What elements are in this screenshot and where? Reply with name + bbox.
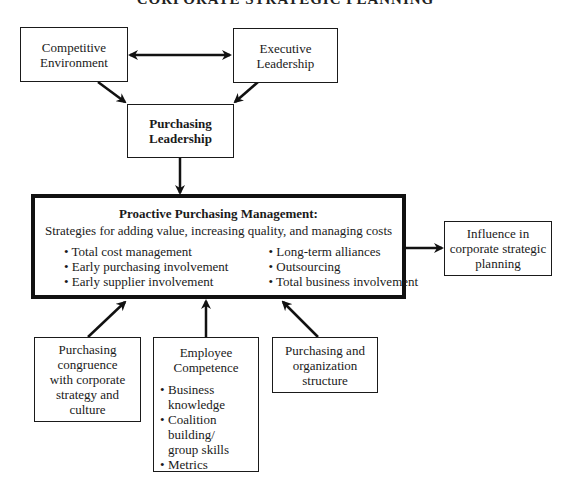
arrow-congruence-to-management: [88, 302, 125, 337]
management-strategy-list: • Total cost management • Early purchasi…: [35, 244, 402, 289]
node-label-line: planning: [475, 256, 521, 271]
management-subtitle: Strategies for adding value, increasing …: [35, 223, 402, 238]
node-influence-in-planning: Influence in corporate strategic plannin…: [444, 221, 552, 276]
node-purchasing-leadership: Purchasing Leadership: [127, 104, 234, 158]
node-label-line: Competitive: [42, 40, 106, 55]
node-label-line: Environment: [40, 55, 108, 70]
node-proactive-purchasing-management: Proactive Purchasing Management: Strateg…: [31, 194, 406, 299]
node-label-line: corporate strategic: [450, 241, 546, 256]
node-label-line: Leadership: [149, 131, 212, 146]
strategy-item: • Long-term alliances: [268, 244, 418, 259]
arrow-executive-to-purchasing-leadership: [235, 82, 258, 102]
node-label-line: Executive: [260, 41, 312, 56]
arrow-structure-to-management: [283, 302, 318, 337]
strategy-item: • Total cost management: [64, 244, 228, 259]
node-label-line: organization: [293, 358, 358, 373]
competence-list: Business knowledge Coalition building/ g…: [154, 382, 248, 472]
strategy-item: • Total business involvement: [268, 274, 418, 289]
strategy-column-right: • Long-term alliances • Outsourcing • To…: [228, 244, 418, 289]
competence-item: Metrics: [160, 457, 248, 472]
node-label-line: Purchasing and: [285, 343, 365, 358]
node-label-line: culture: [69, 402, 105, 417]
management-heading: Proactive Purchasing Management:: [35, 206, 402, 221]
node-label-line: Competence: [174, 360, 239, 375]
strategy-column-left: • Total cost management • Early purchasi…: [35, 244, 228, 289]
node-label-line: Purchasing: [59, 342, 117, 357]
node-label-line: strategy and: [56, 387, 119, 402]
node-competitive-environment: Competitive Environment: [20, 27, 128, 82]
node-employee-competence: Employee Competence Business knowledge C…: [153, 337, 259, 472]
node-label-line: Leadership: [257, 56, 315, 71]
competence-item: Business knowledge: [160, 382, 238, 412]
node-label-line: Purchasing: [149, 116, 212, 131]
node-label-line: with corporate: [50, 372, 125, 387]
strategy-item: • Early supplier involvement: [64, 274, 228, 289]
node-executive-leadership: Executive Leadership: [233, 28, 338, 83]
strategy-item: • Outsourcing: [268, 259, 418, 274]
node-label-line: Influence in: [467, 226, 529, 241]
node-label-line: congruence: [58, 357, 118, 372]
node-purchasing-congruence: Purchasing congruence with corporate str…: [34, 337, 141, 422]
node-label-line: Employee: [180, 345, 233, 360]
competence-item: Coalition building/ group skills: [160, 412, 248, 457]
arrow-competitive-to-purchasing-leadership: [98, 82, 125, 102]
node-organization-structure: Purchasing and organization structure: [272, 337, 378, 393]
node-label-line: structure: [302, 373, 347, 388]
strategy-item: • Early purchasing involvement: [64, 259, 228, 274]
